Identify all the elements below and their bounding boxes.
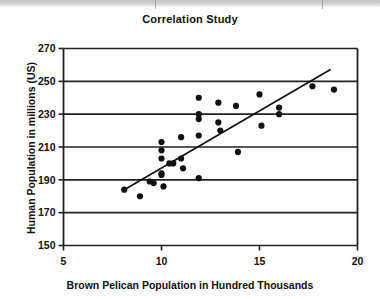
data-point [178, 134, 184, 140]
data-point [151, 180, 157, 186]
y-tick-label: 250 [38, 75, 56, 87]
data-point [331, 86, 337, 92]
y-tick-label: 230 [38, 108, 56, 120]
chart-figure: Correlation Study Human Population in mi… [0, 0, 380, 299]
data-point [235, 149, 241, 155]
y-tick-label: 150 [38, 239, 56, 251]
data-point [160, 183, 166, 189]
data-point [180, 165, 186, 171]
scatter-plot-area: 1501701902102302502705101520 [0, 0, 380, 299]
y-tick-label: 270 [38, 42, 56, 54]
y-tick-label: 210 [38, 141, 56, 153]
data-point [215, 119, 221, 125]
y-tick-label: 170 [38, 206, 56, 218]
data-point [256, 91, 262, 97]
data-point [158, 139, 164, 145]
data-point [121, 187, 127, 193]
data-point [233, 103, 239, 109]
data-point [276, 105, 282, 111]
data-point [258, 123, 264, 129]
data-point [158, 172, 164, 178]
x-tick-label: 5 [61, 255, 67, 267]
data-point [276, 111, 282, 117]
data-point [309, 83, 315, 89]
y-tick-label: 190 [38, 174, 56, 186]
data-point [217, 127, 223, 133]
data-point [215, 100, 221, 106]
data-point [196, 95, 202, 101]
x-tick-label: 20 [352, 255, 364, 267]
data-point [178, 155, 184, 161]
data-point [196, 132, 202, 138]
x-tick-label: 15 [254, 255, 266, 267]
trend-line [124, 70, 330, 190]
data-point [170, 160, 176, 166]
x-tick-label: 10 [156, 255, 168, 267]
data-point [158, 155, 164, 161]
data-point [196, 116, 202, 122]
data-point [158, 147, 164, 153]
data-point [137, 193, 143, 199]
data-point [196, 175, 202, 181]
